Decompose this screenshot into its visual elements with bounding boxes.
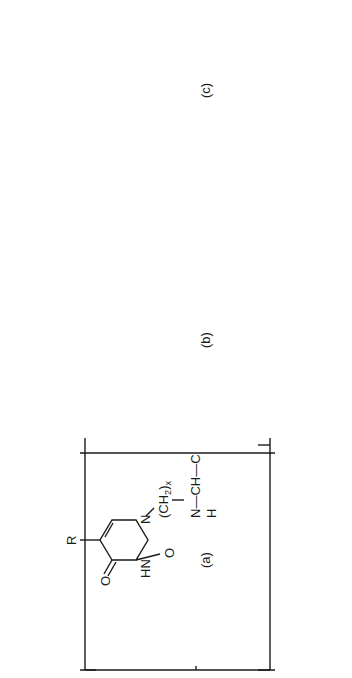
- structure-a: R O HN O N (CH2)x N—CH—C H: [64, 438, 275, 670]
- label-N-a-ring: N: [138, 515, 153, 524]
- structure-b: (b): [198, 332, 213, 348]
- label-HN-a: HN: [138, 559, 153, 578]
- label-backbone-a: N—CH—C: [188, 454, 203, 518]
- caption-a: (a): [198, 552, 213, 568]
- label-CH2-a: (CH2)x: [156, 481, 173, 518]
- label-O-a1: O: [98, 576, 113, 586]
- chemical-structures-figure: R O HN O N (CH2)x N—CH—C H (b) (c) (a): [0, 0, 352, 678]
- bracket-a-left-top: [85, 438, 96, 670]
- ring-a: [100, 520, 148, 560]
- caption-c: (c): [198, 83, 213, 98]
- label-O-a2: O: [162, 548, 177, 558]
- structure-c: (c): [198, 83, 213, 98]
- label-H-a1: H: [204, 509, 219, 518]
- caption-b: (b): [198, 332, 213, 348]
- label-R: R: [64, 536, 79, 545]
- figure-canvas: R O HN O N (CH2)x N—CH—C H (b) (c) (a): [0, 0, 352, 678]
- bracket-a-bottom: [258, 438, 270, 670]
